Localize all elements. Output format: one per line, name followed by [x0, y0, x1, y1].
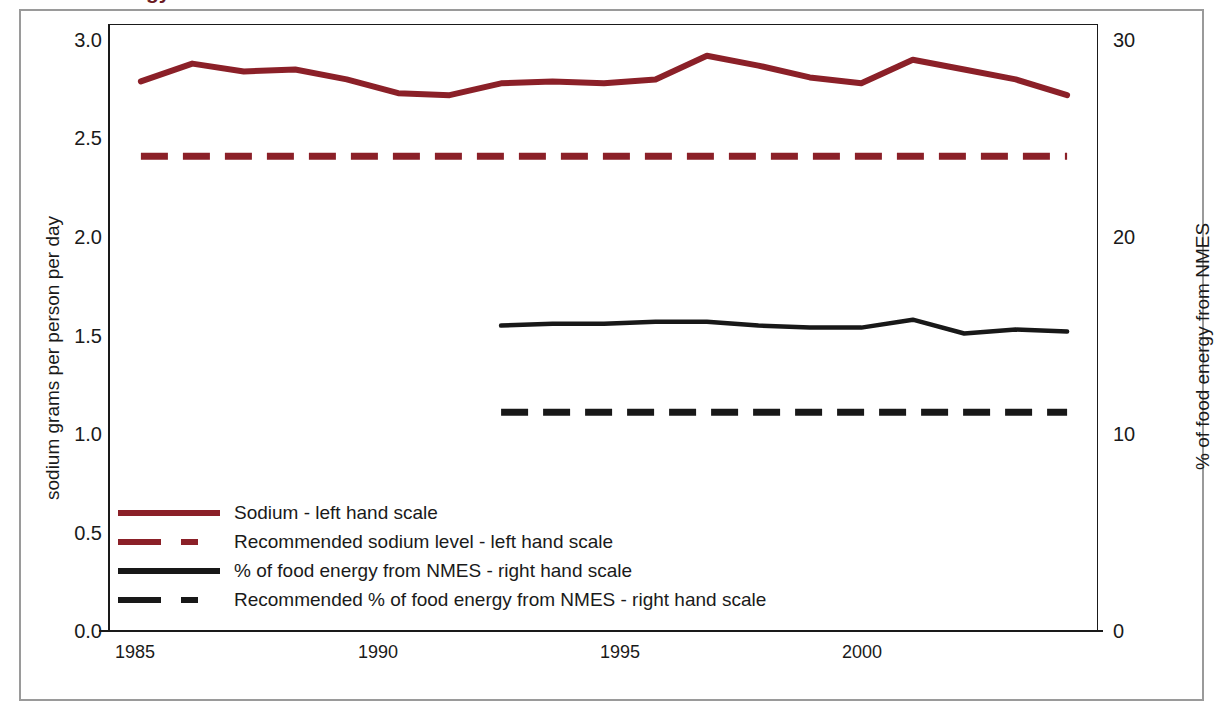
series-sodium-line — [141, 56, 1067, 95]
chart-legend: Sodium - left hand scale Recommended sod… — [118, 498, 778, 614]
legend-label-sodium: Sodium - left hand scale — [234, 498, 438, 527]
legend-label-nmes: % of food energy from NMES - right hand … — [234, 556, 632, 585]
legend-swatch-sodium-line-icon — [118, 510, 220, 516]
series-nmes-line — [501, 320, 1067, 334]
legend-item-recommended-nmes: Recommended % of food energy from NMES -… — [118, 585, 778, 614]
chart-page: gy f 3.0 2.5 2.0 1.5 1.0 0.5 0.0 30 20 1… — [0, 0, 1217, 719]
legend-swatch-nmes-line-icon — [118, 568, 220, 574]
legend-item-sodium: Sodium - left hand scale — [118, 498, 778, 527]
legend-item-recommended-sodium: Recommended sodium level - left hand sca… — [118, 527, 778, 556]
legend-item-nmes: % of food energy from NMES - right hand … — [118, 556, 778, 585]
legend-swatch-recommended-nmes-dashed-icon — [118, 597, 220, 603]
legend-swatch-recommended-sodium-dashed-icon — [118, 539, 220, 545]
legend-label-recommended-sodium: Recommended sodium level - left hand sca… — [234, 527, 613, 556]
legend-label-recommended-nmes: Recommended % of food energy from NMES -… — [234, 585, 766, 614]
